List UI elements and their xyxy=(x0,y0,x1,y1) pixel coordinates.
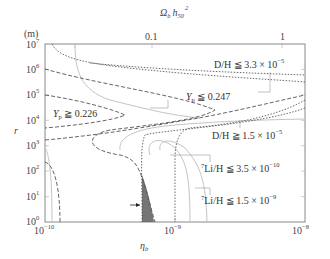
arrow-indicator xyxy=(130,203,140,207)
svg-text:104: 104 xyxy=(26,113,40,126)
top-ticks xyxy=(75,44,282,48)
li-curve-3 xyxy=(160,141,207,222)
top-axis-title: Ωbh502 xyxy=(160,4,189,19)
x-axis-title: ηb xyxy=(140,240,149,252)
anno-yp-high: Yp ≦ 0.247 xyxy=(186,91,230,103)
anno-li-2: 7Li/H ≦ 1.5 × 10−9 xyxy=(201,193,276,206)
svg-text:10−9: 10−9 xyxy=(164,223,181,236)
anno-yp-low: Yp ≧ 0.226 xyxy=(53,108,97,120)
y-axis-title: r xyxy=(14,125,18,136)
top-tick-1: 1 xyxy=(280,31,285,42)
svg-text:105: 105 xyxy=(26,87,39,100)
svg-text:106: 106 xyxy=(26,62,40,75)
svg-text:10−10: 10−10 xyxy=(34,223,54,236)
li-curve-2 xyxy=(149,141,190,222)
svg-text:103: 103 xyxy=(26,138,39,151)
y-tick-labels: 100 101 102 103 104 105 106 107 xyxy=(26,37,40,227)
anno-dh-low: D/H ≧ 1.5 × 10−5 xyxy=(212,128,282,141)
svg-text:107: 107 xyxy=(26,37,40,50)
x-tick-labels: 10−10 10−9 10−8 xyxy=(34,223,309,236)
bbn-constraint-chart: Ωbh502 (m) 0.1 1 100 101 102 103 104 1 xyxy=(0,0,330,259)
anno-dh-high: D/H ≦ 3.3 × 10−5 xyxy=(214,57,284,70)
top-tick-0.1: 0.1 xyxy=(145,31,158,42)
svg-text:102: 102 xyxy=(26,163,39,176)
li-curve-lower-left xyxy=(45,148,52,222)
anno-li-1: 7Li/H ≦ 3.5 × 10−10 xyxy=(201,161,279,174)
svg-text:101: 101 xyxy=(26,189,39,202)
svg-text:10−8: 10−8 xyxy=(292,223,309,236)
